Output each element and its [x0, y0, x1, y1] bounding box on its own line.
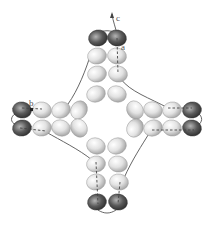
light-bead-right-arm — [141, 99, 164, 121]
light-bead-top-arm — [86, 46, 107, 65]
light-bead-center-ring — [67, 98, 90, 122]
light-bead-center-ring — [123, 116, 146, 140]
label-b: b — [29, 98, 34, 108]
light-bead-center-ring — [105, 83, 128, 105]
thread-end-marker — [30, 108, 33, 111]
light-bead-top-arm — [86, 64, 107, 83]
light-bead-left-arm — [31, 118, 52, 137]
dark-bead-top-arm — [87, 28, 108, 47]
thread-right-bottom-curve — [124, 132, 150, 178]
light-bead-left-arm — [31, 100, 52, 119]
thread-bottom-link — [98, 210, 116, 213]
light-bead-center-ring — [67, 116, 90, 140]
light-bead-bottom-arm — [85, 172, 106, 191]
beads — [11, 28, 202, 211]
light-bead-center-ring — [84, 135, 107, 157]
label-c: c — [116, 13, 120, 23]
light-bead-center-ring — [123, 98, 146, 122]
bead-diagram: c a b — [0, 0, 212, 225]
dark-bead-right-arm — [181, 118, 202, 137]
light-bead-center-ring — [105, 135, 128, 157]
light-bead-right-arm — [161, 118, 182, 137]
thread-left-bottom-curve — [46, 132, 92, 160]
light-bead-center-ring — [84, 83, 107, 105]
dark-bead-right-arm — [181, 100, 202, 119]
thread-top-right-curve — [120, 78, 168, 108]
dark-bead-bottom-arm — [86, 192, 107, 211]
light-bead-right-arm — [161, 100, 182, 119]
light-bead-bottom-arm — [107, 154, 128, 173]
light-bead-right-arm — [141, 117, 164, 139]
label-a: a — [121, 42, 125, 52]
arrow-up-icon — [110, 12, 114, 18]
